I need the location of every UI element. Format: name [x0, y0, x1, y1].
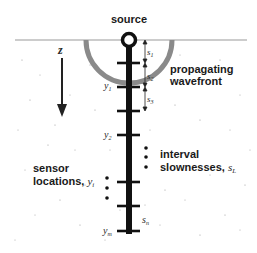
source-label: source: [111, 13, 147, 25]
sensor-label-line2: locations, yi: [33, 175, 94, 189]
interval-label-line1: interval: [160, 148, 199, 160]
borehole-diagram: source s1 s2 s3 sn y1 y2 ym z propagatin…: [0, 0, 257, 253]
slowness-label-s2: s2: [147, 71, 154, 82]
sensor-label-y1: y1: [103, 80, 111, 92]
sensor-label-y2: y2: [103, 129, 111, 141]
depth-arrow-icon: [57, 104, 67, 117]
wavefront-label-line1: propagating: [170, 63, 234, 75]
interval-label-line2: slownesses, sL: [160, 161, 236, 175]
source-icon: [123, 34, 136, 47]
ellipsis-dots-right: [144, 146, 148, 169]
sensor-label-line1: sensor: [33, 162, 70, 174]
slowness-label-sn: sn: [142, 214, 149, 226]
ellipsis-dots-left: [105, 176, 109, 200]
sensor-label-ym: ym: [102, 225, 112, 237]
wavefront-label-line2: wavefront: [169, 75, 222, 87]
slowness-label-s1: s1: [147, 47, 154, 58]
z-axis-label: z: [57, 43, 63, 57]
slowness-label-s3: s3: [147, 94, 154, 105]
